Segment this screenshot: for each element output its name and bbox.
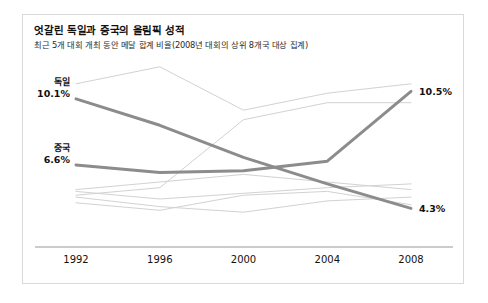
series-line-highlight: [76, 99, 411, 208]
germany-start-value: 10.1%: [37, 88, 70, 99]
series-line-highlight: [76, 91, 411, 172]
china-end-value: 10.5%: [419, 86, 452, 97]
germany-series-label: 독일: [54, 76, 70, 87]
series-line-muted: [76, 174, 411, 189]
chart-card: 엇갈린 독일과 중국의 올림픽 성적 최근 5개 대회 개최 동안 메달 합계 …: [22, 14, 464, 284]
series-line-muted: [76, 103, 411, 196]
x-axis-tick-label: 2004: [315, 254, 340, 265]
x-axis-tick-labels: 19921996200020042008: [63, 254, 423, 265]
line-chart-plot: 19921996200020042008 독일10.1%중국6.6%10.5%4…: [23, 15, 465, 285]
germany-end-value: 4.3%: [419, 203, 446, 214]
background-series-group: [76, 67, 411, 212]
china-start-value: 6.6%: [44, 154, 71, 165]
series-line-muted: [76, 197, 411, 212]
china-series-label: 중국: [54, 143, 71, 153]
x-axis-tick-label: 2008: [398, 254, 423, 265]
x-axis-tick-label: 1996: [147, 254, 172, 265]
x-axis-tick-label: 1992: [63, 254, 88, 265]
series-line-muted: [76, 67, 411, 110]
x-axis-tick-label: 2000: [231, 254, 256, 265]
